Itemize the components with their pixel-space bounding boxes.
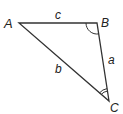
side-label-b: b xyxy=(55,62,62,76)
side-label-a: a xyxy=(108,53,115,67)
triangle-abc xyxy=(19,23,109,101)
vertex-label-a: A xyxy=(3,16,13,31)
vertex-label-c: C xyxy=(110,101,119,114)
angle-mark-c-inner xyxy=(101,91,107,94)
triangle-diagram: A B C c a b xyxy=(0,0,123,114)
vertex-label-b: B xyxy=(101,16,109,30)
side-label-c: c xyxy=(55,8,61,22)
